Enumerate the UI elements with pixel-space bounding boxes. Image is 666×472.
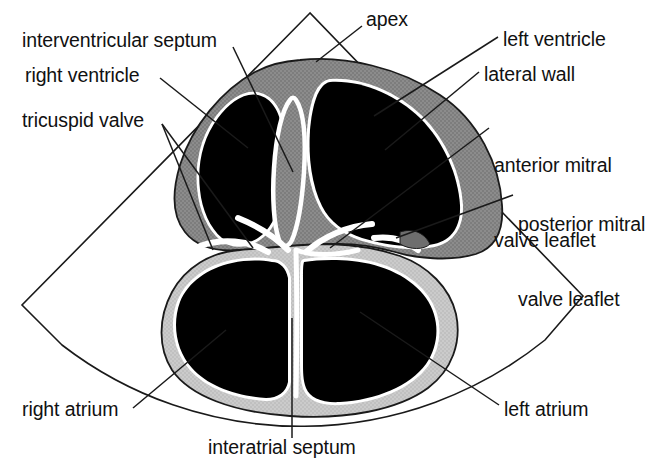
label-line-1: posterior mitral [518, 212, 645, 237]
label-line-2: valve leaflet [518, 287, 645, 312]
label-right-ventricle: right ventricle [25, 63, 139, 88]
interatrial-septum-line [296, 252, 297, 396]
label-right-atrium: right atrium [22, 397, 118, 422]
label-left-ventricle: left ventricle [503, 27, 606, 52]
label-interatrial-septum: interatrial septum [208, 435, 356, 460]
label-lateral-wall: lateral wall [484, 62, 575, 87]
echocardiogram-diagram: interventricular septum right ventricle … [0, 0, 666, 472]
label-posterior-mitral-valve-leaflet: posterior mitral valve leaflet [518, 162, 645, 362]
label-interventricular-septum: interventricular septum [22, 28, 217, 53]
label-left-atrium: left atrium [504, 397, 589, 422]
leader-apex [316, 26, 362, 62]
label-tricuspid-valve: tricuspid valve [22, 108, 144, 133]
label-apex: apex [366, 7, 408, 32]
